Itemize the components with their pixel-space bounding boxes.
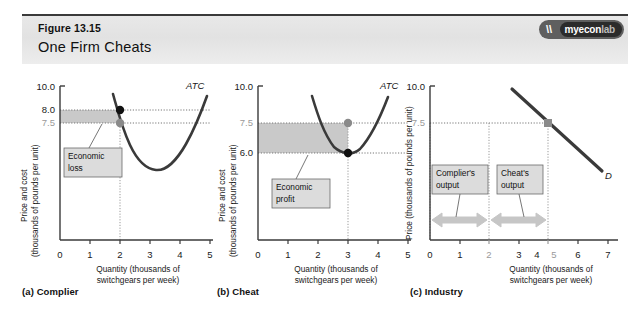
economic-profit-label-line2: profit: [276, 194, 295, 204]
compliers-output-leader: [456, 194, 460, 217]
panel-b-ylabel-7p5: 7.5: [240, 117, 253, 128]
panel-c-xlabel-7: 7: [605, 249, 610, 260]
panel-a-ylabel-7p5: 7.5: [42, 117, 55, 128]
panel-a-xaxis-label-line2: switchgears per week): [97, 275, 180, 285]
economic-loss-label-line2: loss: [68, 163, 83, 173]
atc-curve: [113, 94, 207, 170]
panel-c-ylabel-7p5: 7.5: [412, 117, 425, 128]
demand-curve-label: D: [605, 170, 612, 181]
panel-c-xaxis-label-line1: Quantity (thousands of: [509, 264, 593, 274]
panel-a-xlabel-3: 3: [147, 249, 152, 260]
panel-c-ylabel-10: 10.0: [407, 81, 426, 92]
figure-number: Figure 13.15: [38, 22, 101, 34]
page-title: One Firm Cheats: [38, 39, 151, 55]
atc-cost-point: [116, 106, 124, 114]
panel-b-xlabel-3: 3: [345, 249, 350, 260]
chart-panel-complier: Price and cost (thousands of pounds per …: [14, 72, 222, 287]
brand-lab-text: lab: [601, 25, 615, 35]
panel-b-yaxis-label-line2: (thousands of pounds per unit): [228, 144, 238, 257]
panel-b-ylabel-10: 10.0: [235, 81, 254, 92]
price-point: [344, 119, 352, 127]
panel-c-xlabel-2: 2: [486, 249, 491, 260]
chart-panel-cheat: Price and cost (thousands of pounds per …: [212, 72, 420, 287]
economic-profit-leader: [296, 155, 308, 179]
panel-c-xlabel-0: 0: [427, 249, 432, 260]
complier-plot: Price and cost (thousands of pounds per …: [14, 72, 222, 287]
panel-a-xlabel-2: 2: [117, 249, 122, 260]
panel-a-ylabel-8: 8.0: [42, 104, 55, 115]
cheats-output-label-line1: Cheat's: [501, 168, 529, 178]
panel-b-xaxis-label-line2: switchgears per week): [295, 275, 378, 285]
panel-c-xlabel-4: 4: [534, 249, 539, 260]
panel-a-xlabel-4: 4: [177, 249, 182, 260]
price-point: [116, 119, 124, 127]
cheats-output-leader: [519, 194, 524, 217]
panel-c-xlabel-5: 5: [551, 249, 556, 260]
economic-loss-region: [60, 110, 120, 123]
panel-a-ylabel-10: 10.0: [37, 81, 56, 92]
panel-a-yaxis-label-line2: (thousands of pounds per unit): [30, 144, 40, 257]
panel-c-xlabel-6: 6: [575, 249, 580, 260]
panel-b-xaxis-label-line1: Quantity (thousands of: [294, 264, 378, 274]
myeconlab-logo[interactable]: \\ myeconlab: [539, 20, 624, 39]
panel-c-xaxis-label-line2: switchgears per week): [510, 275, 593, 285]
brand-econ-text: econ: [579, 25, 602, 35]
cheats-output-label-line2: output: [501, 180, 525, 190]
panel-c-xlabel-3: 3: [516, 249, 521, 260]
panel-a-yaxis-label-line1: Price and cost: [19, 169, 29, 222]
compliers-output-arrow: [432, 213, 487, 227]
panel-b-yaxis-label-line1: Price and cost: [217, 169, 227, 222]
economic-profit-label-line1: Economic: [276, 182, 312, 192]
caption-complier: (a) Complier: [22, 286, 79, 297]
brand-my-text: my: [565, 25, 579, 35]
panel-b-ylabel-6: 6.0: [240, 147, 253, 158]
economic-loss-label-line1: Economic: [68, 151, 104, 161]
panel-b-xlabel-0: 0: [255, 249, 260, 260]
economic-loss-leader: [89, 124, 102, 148]
demand-curve: [512, 89, 602, 171]
chart-panel-industry: Price (thousands of pounds per unit) D: [396, 72, 636, 287]
compliers-output-label-line1: Complier's: [436, 168, 475, 178]
panel-a-xlabel-0: 0: [57, 249, 62, 260]
compliers-output-label-line2: output: [436, 180, 460, 190]
atc-curve-label: ATC: [185, 80, 204, 91]
cheat-plot: Price and cost (thousands of pounds per …: [212, 72, 420, 287]
equilibrium-point: [544, 119, 552, 127]
panel-c-xlabel-1: 1: [457, 249, 462, 260]
panel-a-xaxis-label-line1: Quantity (thousands of: [96, 264, 180, 274]
panel-b-xlabel-1: 1: [285, 249, 290, 260]
atc-cost-point: [344, 149, 352, 157]
myeconlab-mark-icon: \\: [541, 22, 558, 37]
industry-plot: Price (thousands of pounds per unit) D: [396, 72, 636, 287]
panel-b-xlabel-2: 2: [315, 249, 320, 260]
cheats-output-arrow: [491, 213, 546, 227]
panel-b-xlabel-4: 4: [375, 249, 380, 260]
panel-a-xlabel-1: 1: [87, 249, 92, 260]
myeconlab-wordmark: myeconlab: [560, 22, 622, 37]
caption-cheat: (b) Cheat: [217, 286, 259, 297]
caption-industry: (c) Industry: [410, 286, 463, 297]
